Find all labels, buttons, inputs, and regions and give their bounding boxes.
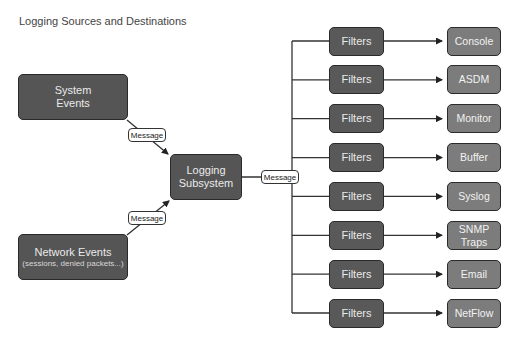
filter-label: Filters [342,307,372,320]
destination-box-monitor: Monitor [447,104,501,133]
destination-label: Syslog [458,190,490,203]
destination-box-netflow: NetFlow [447,299,501,328]
destination-label: Email [461,268,487,281]
filter-label: Filters [342,73,372,86]
filter-label: Filters [342,268,372,281]
destination-label-line2: Traps [461,236,487,249]
logging-subsystem-label: Logging [186,164,225,177]
filter-label: Filters [342,151,372,164]
filter-label: Filters [342,229,372,242]
destination-box-snmp: SNMPTraps [447,221,501,250]
destination-box-asdm: ASDM [447,65,501,94]
system-events-label: System [55,84,92,97]
destination-box-email: Email [447,260,501,289]
filter-label: Filters [342,190,372,203]
system-events-box: System Events [18,74,128,120]
filter-label: Filters [342,35,372,48]
filter-box: Filters [329,27,384,56]
connector-lines [0,0,520,342]
message-label-network: Message [128,211,166,225]
destination-box-syslog: Syslog [447,182,501,211]
destination-box-console: Console [447,27,501,56]
destination-box-buffer: Buffer [447,143,501,172]
destination-label: NetFlow [455,307,494,320]
logging-subsystem-box: Logging Subsystem [170,154,242,200]
filter-box: Filters [329,182,384,211]
network-events-label: Network Events [34,246,111,259]
network-events-sublabel: (sessions, denied packets...) [22,259,123,269]
filter-box: Filters [329,143,384,172]
logging-subsystem-label-line2: Subsystem [179,177,233,190]
filter-box: Filters [329,65,384,94]
destination-label: SNMP [459,223,489,236]
filter-box: Filters [329,260,384,289]
system-events-label-line2: Events [56,97,90,110]
network-events-box: Network Events (sessions, denied packets… [18,234,128,280]
filter-box: Filters [329,104,384,133]
message-label-output: Message [261,170,299,184]
filter-label: Filters [342,112,372,125]
filter-box: Filters [329,221,384,250]
destination-label: Buffer [460,151,488,164]
destination-label: Console [455,35,494,48]
destination-label: ASDM [459,73,489,86]
filter-box: Filters [329,299,384,328]
destination-label: Monitor [456,112,491,125]
message-label-system: Message [128,128,166,142]
